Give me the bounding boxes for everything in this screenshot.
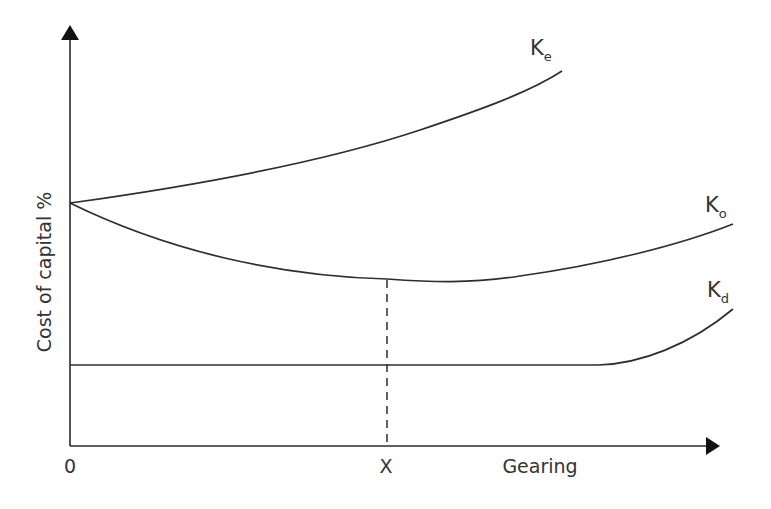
cost-of-capital-diagram: Ke Ko Kd 0 X Gearing Cost of capital % (0, 0, 771, 509)
y-axis-title: Cost of capital % (33, 192, 55, 353)
x-marker-label: X (379, 455, 392, 477)
x-axis-arrow-icon (706, 437, 720, 455)
ko-curve (70, 203, 733, 282)
origin-label: 0 (64, 455, 76, 477)
kd-curve (70, 309, 733, 365)
ke-label: Ke (530, 36, 552, 64)
ke-curve (70, 71, 562, 203)
ko-label: Ko (705, 193, 727, 221)
y-axis-arrow-icon (61, 25, 79, 40)
kd-label: Kd (707, 278, 729, 306)
x-axis-title: Gearing (502, 455, 577, 477)
